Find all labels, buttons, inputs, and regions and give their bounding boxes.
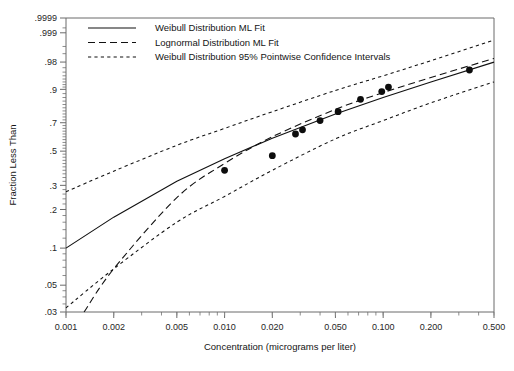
legend: Weibull Distribution ML FitLognormal Dis… xyxy=(88,22,391,62)
data-point xyxy=(221,167,228,174)
fit-curves xyxy=(66,40,494,312)
y-tick-label: .3 xyxy=(49,181,57,191)
y-tick-label: .7 xyxy=(49,118,57,128)
data-points xyxy=(221,67,473,174)
y-tick-label: .1 xyxy=(49,243,57,253)
y-tick-label: .9 xyxy=(49,85,57,95)
x-tick-label: 0.002 xyxy=(102,322,125,332)
y-tick-label: .9999 xyxy=(34,13,57,23)
x-tick-label: 0.200 xyxy=(420,322,443,332)
x-tick-label: 0.020 xyxy=(261,322,284,332)
x-tick-label: 0.100 xyxy=(372,322,395,332)
data-point xyxy=(385,84,392,91)
fit-curve xyxy=(66,82,494,308)
data-point xyxy=(317,117,324,124)
y-tick-label: .999 xyxy=(39,28,57,38)
data-point xyxy=(466,67,473,74)
y-tick-label: .2 xyxy=(49,205,57,215)
data-point xyxy=(335,108,342,115)
data-point xyxy=(269,152,276,159)
legend-label: Weibull Distribution 95% Pointwise Confi… xyxy=(155,51,391,62)
probability-plot: .9999.999.98.9.7.5.3.2.1.05.03 0.0010.00… xyxy=(0,0,514,371)
data-point xyxy=(357,96,364,103)
legend-label: Weibull Distribution ML Fit xyxy=(155,22,265,33)
x-tick-label: 0.005 xyxy=(166,322,189,332)
y-axis-title: Fraction Less Than xyxy=(7,124,18,205)
y-tick-label: .5 xyxy=(49,146,57,156)
plot-svg: .9999.999.98.9.7.5.3.2.1.05.03 0.0010.00… xyxy=(0,0,514,371)
fit-curve xyxy=(66,40,494,192)
fit-curve xyxy=(84,58,494,312)
legend-label: Lognormal Distribution ML Fit xyxy=(155,37,279,48)
x-tick-label: 0.500 xyxy=(483,322,506,332)
data-point xyxy=(378,88,385,95)
x-axis-ticks: 0.0010.0020.0050.0100.0200.0500.1000.200… xyxy=(55,312,506,332)
x-tick-label: 0.010 xyxy=(213,322,236,332)
x-tick-label: 0.050 xyxy=(324,322,347,332)
data-point xyxy=(299,126,306,133)
y-tick-label: .05 xyxy=(44,280,57,290)
x-axis-title: Concentration (micrograms per liter) xyxy=(204,341,356,352)
fit-curve xyxy=(66,62,494,248)
y-axis-ticks: .9999.999.98.9.7.5.3.2.1.05.03 xyxy=(34,13,66,317)
y-tick-label: .98 xyxy=(44,57,57,67)
x-tick-label: 0.001 xyxy=(55,322,78,332)
data-point xyxy=(292,131,299,138)
y-tick-label: .03 xyxy=(44,307,57,317)
